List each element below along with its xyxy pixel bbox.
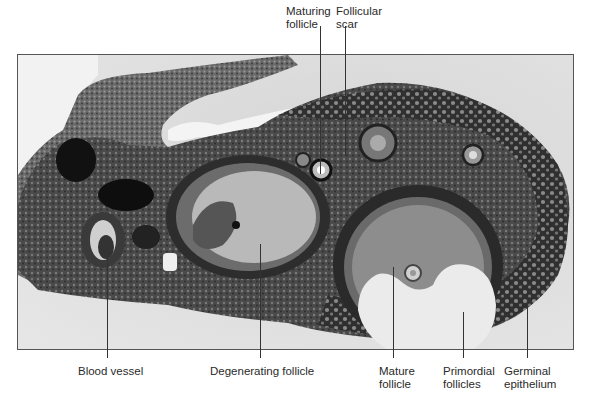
label-maturing-follicle: Maturing follicle — [286, 5, 331, 31]
label-blood-vessel: Blood vessel — [78, 365, 143, 378]
label-primordial-follicles: Primordial follicles — [443, 365, 495, 391]
label-mature-follicle: Mature follicle — [379, 365, 415, 391]
ovary-section-illustration — [18, 55, 574, 350]
label-follicular-scar: Follicular scar — [336, 5, 382, 31]
label-germinal-epithelium: Germinal epithelium — [504, 365, 556, 391]
leader-blood-vessel — [107, 258, 108, 358]
leader-germinal-epithelium — [527, 296, 528, 358]
label-degenerating-follicle: Degenerating follicle — [210, 365, 314, 378]
micrograph-panel — [17, 54, 574, 350]
leader-follicular-scar — [345, 26, 346, 156]
leader-degenerating-follicle — [260, 244, 261, 358]
leader-maturing-follicle — [320, 26, 321, 174]
leader-mature-follicle — [393, 267, 394, 358]
leader-primordial-follicles — [463, 312, 464, 358]
